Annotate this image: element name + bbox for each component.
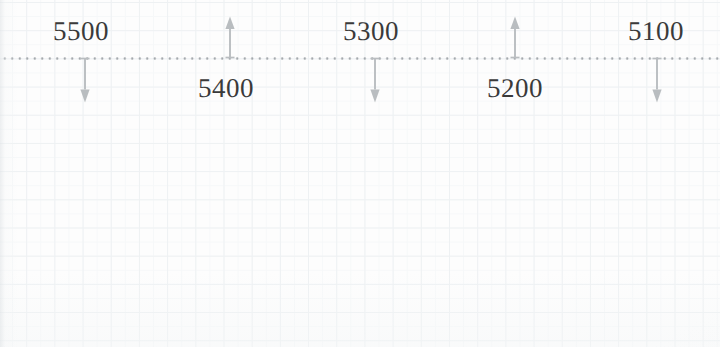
grid-background <box>0 0 720 347</box>
value-label-5400: 5400 <box>198 75 254 102</box>
arrow-up-5400 <box>222 16 238 62</box>
value-label-5200: 5200 <box>487 75 543 102</box>
arrow-up-5200 <box>507 16 523 62</box>
paper-vignette <box>0 0 720 347</box>
arrow-down-5100 <box>649 58 665 107</box>
fine-grid-background <box>0 0 720 347</box>
value-label-5300: 5300 <box>343 18 399 45</box>
value-label-5500: 5500 <box>53 18 109 45</box>
value-label-5100: 5100 <box>628 18 684 45</box>
dotted-baseline <box>0 57 720 60</box>
arrow-down-5500 <box>77 58 93 107</box>
paper-shading <box>0 0 720 347</box>
graph-paper-sheet: 55005400530052005100 <box>0 0 720 347</box>
arrow-down-5300 <box>367 58 383 107</box>
